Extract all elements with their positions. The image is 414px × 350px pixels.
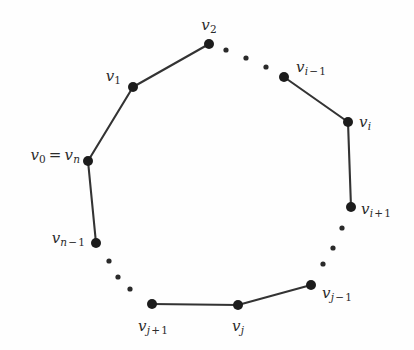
vertex-label-v2: v2	[201, 18, 216, 33]
vertex-label-vi-plus-1: vi+1	[361, 202, 391, 217]
label-sub-n: n	[73, 153, 80, 165]
vertex-vj[interactable]	[233, 300, 243, 310]
label-base-vj-plus: v	[138, 317, 147, 335]
ellipsis-dot	[339, 225, 344, 230]
minus-sign: −	[334, 291, 345, 303]
vertex-group	[83, 39, 356, 310]
label-sub-j: j	[241, 324, 244, 336]
edge-vj-minus-1-vj	[238, 285, 311, 305]
plus-sign: +	[150, 324, 161, 336]
vertex-vj-plus-1[interactable]	[147, 299, 157, 309]
label-base-v2: v	[201, 16, 210, 34]
label-sub-j-minus-1: j−1	[331, 291, 352, 303]
ellipsis-dot	[223, 47, 228, 52]
vertex-label-vj-plus-1: vj+1	[138, 319, 168, 334]
label-base-vi: v	[296, 58, 305, 76]
ellipsis-dot	[330, 245, 335, 250]
ellipsis-dot	[115, 274, 120, 279]
ellipsis-dot	[263, 64, 268, 69]
label-sub-i-plus-1: i+1	[370, 207, 391, 219]
label-base-vn-minus: v	[52, 229, 61, 247]
label-base-v1: v	[106, 67, 115, 85]
label-sub-1: 1	[114, 74, 121, 86]
vertex-vn-minus-1[interactable]	[91, 238, 101, 248]
vertex-vj-minus-1[interactable]	[306, 280, 316, 290]
vertex-v1[interactable]	[128, 82, 138, 92]
ellipsis-dot	[106, 258, 111, 263]
edge-vj-vj-plus-1	[152, 304, 238, 305]
minus-sign: −	[67, 236, 78, 248]
label-base-vn: v	[65, 146, 74, 164]
edge-vi-vi-plus-1	[348, 122, 351, 207]
edge-vn-minus-1-v0	[88, 161, 96, 243]
edge-v1-v2	[133, 44, 209, 87]
label-sub-i-minus-1: i−1	[305, 65, 326, 77]
minus-sign: −	[308, 65, 319, 77]
ellipsis-dot-group	[106, 47, 344, 291]
edge-group	[88, 44, 351, 305]
label-sub-0: 0	[39, 153, 46, 165]
label-base-v0: v	[30, 146, 39, 164]
ellipsis-dot	[243, 55, 248, 60]
ellipsis-dot	[320, 261, 325, 266]
vertex-label-vj-minus-1: vj−1	[322, 286, 352, 301]
vertex-vi-plus-1[interactable]	[346, 202, 356, 212]
vertex-label-vi-minus-1: vi−1	[296, 60, 326, 75]
label-base-vi-plus: v	[361, 200, 370, 218]
label-base-vj: v	[232, 317, 241, 335]
vertex-v0[interactable]	[83, 156, 93, 166]
vertex-label-vn-minus-1: vn−1	[52, 231, 85, 246]
plus-sign: +	[373, 207, 384, 219]
label-sub-n-minus-1: n−1	[60, 236, 85, 248]
ellipsis-dot	[127, 286, 132, 291]
label-sub-i: i	[368, 120, 371, 132]
vertex-label-v1: v1	[106, 69, 121, 84]
edge-v0-v1	[88, 87, 133, 161]
vertex-v2[interactable]	[204, 39, 214, 49]
edge-vi-minus-1-vi	[284, 77, 348, 122]
label-base-vi-main: v	[359, 113, 368, 131]
equals-sign: =	[46, 146, 65, 164]
vertex-vi-minus-1[interactable]	[279, 72, 289, 82]
label-base-vj-minus: v	[322, 284, 331, 302]
label-sub-j-plus-1: j+1	[147, 324, 168, 336]
vertex-label-vj: vj	[232, 319, 244, 334]
cycle-graph-figure: v0=vn v1 v2 vi−1 vi vi+1 vj−1 vj vj+1 vn…	[0, 0, 414, 350]
vertex-vi[interactable]	[343, 117, 353, 127]
vertex-label-vi: vi	[359, 115, 371, 130]
vertex-label-v0-equals-vn: v0=vn	[30, 148, 80, 163]
label-sub-2: 2	[210, 23, 217, 35]
